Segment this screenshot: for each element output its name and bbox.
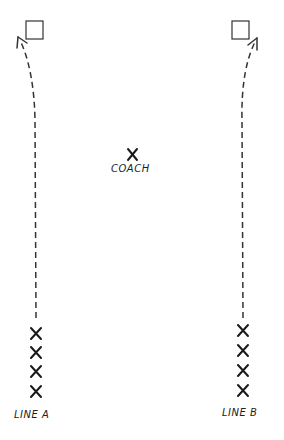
line-a-label: LINE A <box>14 409 49 420</box>
player-marker <box>238 325 248 336</box>
player-marker <box>31 386 41 397</box>
player-marker <box>238 345 248 356</box>
player-marker <box>238 385 248 396</box>
coach-label: COACH <box>111 163 150 174</box>
line-a-players <box>31 328 41 397</box>
player-marker <box>31 328 41 339</box>
player-marker <box>31 347 41 358</box>
path-line-b <box>242 42 255 318</box>
coach-marker <box>128 149 137 160</box>
cone-left <box>26 21 43 39</box>
drill-diagram: COACH LINE A LINE B <box>0 0 284 440</box>
player-marker <box>238 365 248 376</box>
player-marker <box>31 366 41 377</box>
line-b-players <box>238 325 248 396</box>
line-b-label: LINE B <box>222 407 257 418</box>
cone-right <box>232 21 249 39</box>
path-line-a <box>20 40 36 318</box>
